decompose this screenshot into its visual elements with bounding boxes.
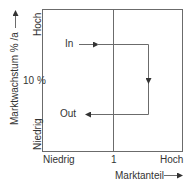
flow-path [88, 45, 149, 115]
y-axis-mid-tick: 10 % [23, 76, 46, 86]
x-axis-high-label: Hoch [160, 155, 183, 165]
y-axis-high-label: Hoch [33, 13, 43, 36]
matrix-frame [43, 10, 183, 152]
y-axis-label: Marktwachstum % /a [10, 32, 20, 125]
x-axis-low-label: Niedrig [43, 155, 75, 165]
y-axis-low-label: Niedrig [33, 118, 43, 150]
x-axis-mid-tick: 1 [111, 155, 117, 165]
x-axis-label: Marktanteil [115, 171, 164, 181]
flow-start-label: In [65, 39, 73, 49]
flow-end-label: Out [60, 109, 76, 119]
